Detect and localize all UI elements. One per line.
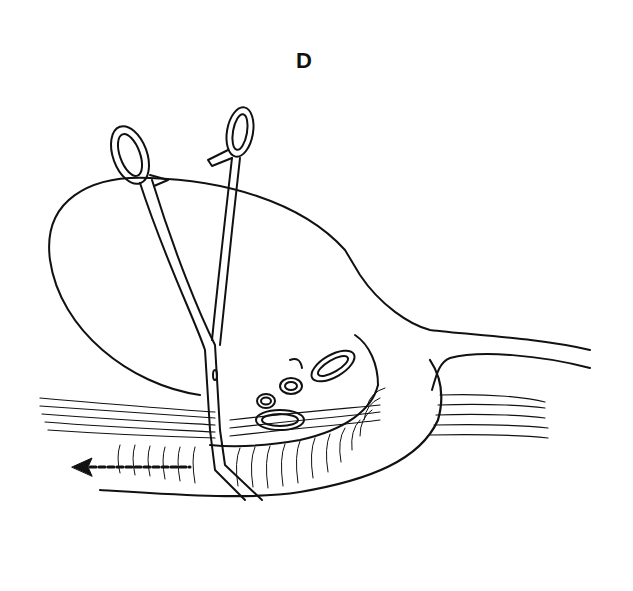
- traction-arrow: [72, 458, 190, 476]
- surgical-illustration: [0, 0, 633, 591]
- vessel-loops: [256, 344, 359, 430]
- duct-extension: [432, 354, 590, 390]
- right-clamp: [208, 105, 257, 345]
- organ-notch: [355, 335, 378, 385]
